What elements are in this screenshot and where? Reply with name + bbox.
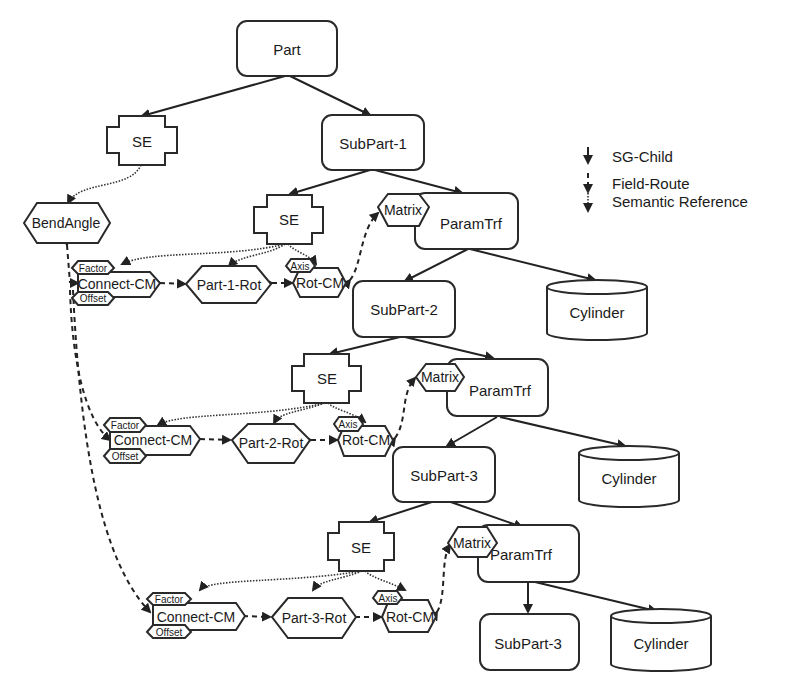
svg-text:SubPart-1: SubPart-1 — [339, 135, 407, 152]
port-offset-2[interactable]: Offset — [104, 449, 146, 463]
svg-text:Offset: Offset — [80, 293, 107, 304]
svg-text:Axis: Axis — [379, 593, 398, 604]
legend-label: SG-Child — [612, 148, 673, 165]
svg-text:SE: SE — [279, 211, 299, 228]
node-se-2[interactable]: SE — [292, 354, 361, 403]
svg-text:ParamTrf: ParamTrf — [469, 382, 532, 399]
svg-text:Part-2-Rot: Part-2-Rot — [239, 435, 304, 451]
svg-text:Matrix: Matrix — [421, 369, 459, 385]
node-part-1-rot[interactable]: Part-1-Rot — [186, 266, 271, 303]
node-cylinder-2[interactable]: Cylinder — [579, 446, 679, 507]
svg-text:BendAngle: BendAngle — [32, 215, 101, 231]
svg-text:Offset: Offset — [156, 627, 183, 638]
node-paramtrf-2[interactable]: ParamTrf — [447, 359, 548, 416]
node-se-1[interactable]: SE — [254, 195, 323, 244]
svg-text:Factor: Factor — [155, 594, 184, 605]
svg-text:Connect-CM: Connect-CM — [157, 609, 236, 625]
level-2: SE ParamTrf Matrix Connect-CM Factor Off… — [104, 354, 679, 507]
node-subpart-2[interactable]: SubPart-2 — [353, 281, 455, 337]
svg-text:Axis: Axis — [291, 261, 310, 272]
svg-text:ParamTrf: ParamTrf — [490, 546, 553, 563]
svg-text:SubPart-3: SubPart-3 — [494, 635, 562, 652]
node-part-3-rot[interactable]: Part-3-Rot — [272, 598, 356, 638]
node-cylinder-1[interactable]: Cylinder — [547, 280, 647, 340]
port-axis-1[interactable]: Axis — [286, 259, 315, 272]
level-1: SE ParamTrf Matrix Connect-CM Factor Off… — [72, 193, 647, 340]
legend-item-semantic-reference: Semantic Reference — [588, 190, 748, 211]
legend-label: Field-Route — [612, 175, 690, 192]
svg-text:Rot-CM: Rot-CM — [342, 432, 390, 448]
svg-text:Factor: Factor — [111, 420, 140, 431]
svg-text:Factor: Factor — [79, 263, 108, 274]
scene-graph-diagram: SG-Child Field-Route Semantic Reference … — [0, 0, 797, 695]
node-part[interactable]: Part — [237, 21, 337, 76]
node-matrix-2[interactable]: Matrix — [416, 364, 464, 391]
svg-text:SE: SE — [317, 370, 337, 387]
node-cylinder-3[interactable]: Cylinder — [611, 609, 711, 671]
port-factor-2[interactable]: Factor — [104, 418, 146, 432]
svg-text:Connect-CM: Connect-CM — [114, 432, 193, 448]
svg-text:SE: SE — [351, 539, 371, 556]
legend-label: Semantic Reference — [612, 193, 748, 210]
svg-text:Cylinder: Cylinder — [601, 470, 656, 487]
port-factor-3[interactable]: Factor — [147, 593, 191, 605]
svg-text:Offset: Offset — [112, 451, 139, 462]
port-offset-1[interactable]: Offset — [72, 292, 114, 305]
port-axis-2[interactable]: Axis — [334, 417, 363, 431]
node-se-top[interactable]: SE — [107, 116, 177, 165]
svg-text:Rot-CM: Rot-CM — [386, 609, 434, 625]
node-paramtrf-1[interactable]: ParamTrf — [415, 193, 518, 249]
svg-text:Cylinder: Cylinder — [569, 304, 624, 321]
svg-text:ParamTrf: ParamTrf — [440, 215, 503, 232]
svg-text:Matrix: Matrix — [453, 535, 491, 551]
legend-item-field-route: Field-Route — [588, 173, 690, 192]
node-part-2-rot[interactable]: Part-2-Rot — [232, 424, 310, 463]
svg-text:Rot-CM: Rot-CM — [296, 275, 344, 291]
legend-item-sg-child: SG-Child — [588, 147, 673, 165]
level-3: SE ParamTrf Matrix Connect-CM Factor Off… — [147, 522, 711, 671]
node-matrix-3[interactable]: Matrix — [448, 527, 497, 557]
legend: SG-Child Field-Route Semantic Reference — [588, 147, 748, 211]
port-axis-3[interactable]: Axis — [373, 591, 402, 604]
port-offset-3[interactable]: Offset — [147, 625, 191, 638]
svg-text:Connect-CM: Connect-CM — [78, 276, 157, 292]
svg-text:Part-1-Rot: Part-1-Rot — [197, 277, 262, 293]
node-subpart-3-mid[interactable]: SubPart-3 — [393, 447, 495, 502]
svg-text:Matrix: Matrix — [384, 202, 422, 218]
node-bendangle[interactable]: BendAngle — [24, 203, 110, 243]
node-subpart-3-bottom[interactable]: SubPart-3 — [480, 614, 579, 670]
svg-text:SubPart-2: SubPart-2 — [370, 301, 438, 318]
node-paramtrf-3[interactable]: ParamTrf — [478, 525, 579, 582]
svg-text:SubPart-3: SubPart-3 — [410, 467, 478, 484]
node-matrix-1[interactable]: Matrix — [378, 194, 429, 226]
port-factor-1[interactable]: Factor — [72, 261, 114, 274]
svg-text:Cylinder: Cylinder — [633, 635, 688, 652]
svg-text:SE: SE — [132, 133, 152, 150]
node-subpart-1[interactable]: SubPart-1 — [322, 115, 424, 170]
svg-text:Part: Part — [273, 41, 301, 58]
svg-text:Axis: Axis — [339, 419, 358, 430]
node-se-3[interactable]: SE — [328, 522, 394, 571]
svg-text:Part-3-Rot: Part-3-Rot — [282, 610, 347, 626]
